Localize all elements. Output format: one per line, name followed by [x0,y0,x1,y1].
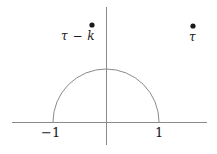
tick-label-positive-one: 1 [155,126,163,139]
math-figure: τ − k τ −1 1 [0,0,217,154]
point-dot-tau [190,23,195,28]
tick-label-negative-one: −1 [41,126,60,139]
point-label-tau-minus-k: τ − k [61,30,95,42]
point-label-tau: τ [189,31,196,43]
figure-canvas [0,0,217,154]
point-dot-tau-minus-k [89,22,94,27]
